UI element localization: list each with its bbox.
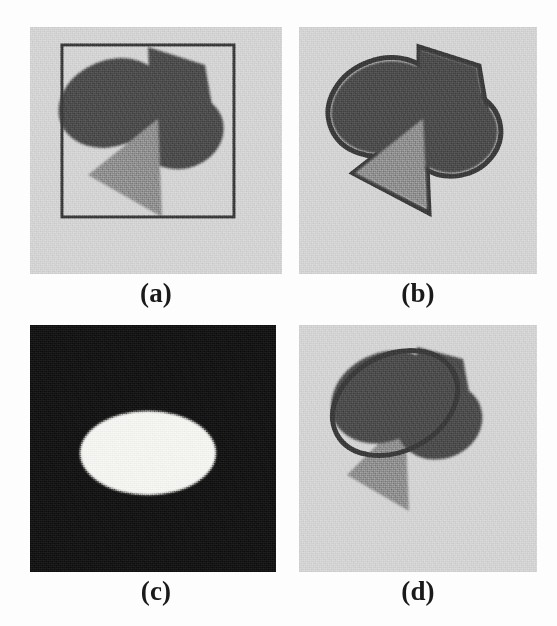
caption-c: (c): [110, 574, 202, 608]
panel-a: [30, 27, 282, 274]
white-ellipse-mask: [80, 411, 216, 495]
panel-c-svg: [30, 325, 276, 572]
panel-b: [299, 27, 537, 274]
panel-c-canvas: [30, 325, 276, 572]
panel-a-svg: [30, 27, 282, 274]
panel-b-svg: [299, 27, 537, 274]
panel-d-svg: [299, 325, 537, 572]
panel-b-canvas: [299, 27, 537, 274]
panel-c: [30, 325, 276, 572]
panel-d-canvas: [299, 325, 537, 572]
caption-a: (a): [110, 276, 202, 310]
figure-panel-grid: (a) (b) (c) (d): [0, 0, 557, 626]
panel-d: [299, 325, 537, 572]
panel-a-canvas: [30, 27, 282, 274]
caption-d: (d): [372, 574, 464, 608]
caption-b: (b): [372, 276, 464, 310]
